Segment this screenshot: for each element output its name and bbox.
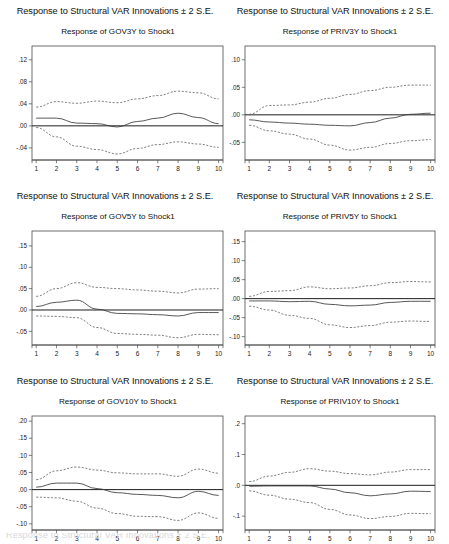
y-tick-label: .00 [18,122,27,129]
x-tick-label: 3 [75,350,79,357]
panel-title: Response of PRIV10Y to Shock1 [225,397,449,406]
panel-supertitle: Response to Structural VAR Innovations ±… [0,376,224,386]
x-tick-label: 9 [197,350,201,357]
y-tick-label: .2 [235,420,241,427]
x-tick-label: 5 [115,165,119,172]
plot-area-priv3y: .10.05.00-.0512345678910 [225,42,449,182]
irf-plot-gov3y: .12.08.04.00-.0412345678910 [0,42,224,182]
x-tick-label: 7 [156,165,160,172]
y-tick-label: -.10 [229,333,240,340]
panel-supertitle: Response to Structural VAR Innovations ±… [225,376,449,386]
y-tick-label: -.04 [16,144,27,151]
x-tick-label: 1 [34,350,38,357]
x-tick-label: 10 [215,350,223,357]
x-tick-label: 4 [95,350,99,357]
y-tick-label: .10 [231,56,240,63]
cutoff-footer-text: Response to Structural VAR Innovations ±… [0,533,449,544]
y-tick-label: .0 [235,482,241,489]
x-tick-label: 6 [136,350,140,357]
irf-plot-gov10y: .20.15.10.05.00-.05-.1012345678910 [0,412,224,544]
panel-supertitle: Response to Structural VAR Innovations ±… [0,191,224,201]
irf-panel-gov10y: Response to Structural VAR Innovations ±… [0,376,224,544]
panel-supertitle: Response to Structural VAR Innovations ±… [225,6,449,16]
panel-title: Response of PRIV5Y to Shock1 [225,212,449,221]
y-tick-label: .12 [18,56,27,63]
y-tick-label: -.05 [16,503,27,510]
x-tick-label: 7 [156,350,160,357]
x-tick-label: 4 [308,165,312,172]
x-tick-label: 9 [409,350,413,357]
x-tick-label: 2 [268,165,272,172]
y-tick-label: .10 [231,257,240,264]
x-tick-label: 8 [176,165,180,172]
y-tick-label: .04 [18,100,27,107]
panel-supertitle: Response to Structural VAR Innovations ±… [225,191,449,201]
x-tick-label: 6 [348,165,352,172]
plot-area-gov3y: .12.08.04.00-.0412345678910 [0,42,224,182]
y-tick-label: .05 [18,469,27,476]
x-tick-label: 8 [388,165,392,172]
x-tick-label: 5 [328,165,332,172]
y-tick-label: -.05 [229,139,240,146]
y-tick-label: .00 [18,306,27,313]
panel-title: Response of GOV10Y to Shock1 [0,397,224,406]
x-tick-label: 3 [288,165,292,172]
y-tick-label: .1 [235,451,241,458]
x-tick-label: 7 [368,165,372,172]
x-tick-label: 4 [95,165,99,172]
x-tick-label: 6 [348,350,352,357]
x-tick-label: 8 [388,350,392,357]
plot-area-priv5y: .15.10.05.00-.05-.1012345678910 [225,227,449,367]
y-tick-label: .15 [18,434,27,441]
figure-sheet: Response to Structural VAR Innovations ±… [0,0,449,544]
x-tick-label: 10 [215,165,223,172]
y-tick-label: .05 [231,84,240,91]
x-tick-label: 7 [368,350,372,357]
y-tick-label: .00 [18,486,27,493]
panel-title: Response of PRIV3Y to Shock1 [225,27,449,36]
y-tick-label: .15 [231,238,240,245]
x-tick-label: 1 [34,165,38,172]
irf-panel-priv3y: Response to Structural VAR Innovations ±… [225,6,449,187]
cutoff-footer-label: Response to Structural VAR Innovations ±… [0,533,449,540]
x-tick-label: 9 [409,165,413,172]
y-tick-label: .10 [18,263,27,270]
y-tick-label: .15 [18,242,27,249]
y-tick-label: -.1 [233,512,241,519]
x-tick-label: 5 [328,350,332,357]
plot-area-gov5y: .15.10.05.00-.0512345678910 [0,227,224,367]
plot-frame [245,231,435,345]
x-tick-label: 1 [247,165,251,172]
y-tick-label: -.10 [16,520,27,527]
plot-frame [32,46,223,160]
y-tick-label: .00 [231,295,240,302]
x-tick-label: 3 [288,350,292,357]
x-tick-label: 1 [247,350,251,357]
x-tick-label: 10 [427,350,435,357]
irf-panel-priv5y: Response to Structural VAR Innovations ±… [225,191,449,372]
plot-area-gov10y: .20.15.10.05.00-.05-.1012345678910 [0,412,224,544]
y-tick-label: -.05 [16,328,27,335]
irf-plot-priv5y: .15.10.05.00-.05-.1012345678910 [225,227,449,367]
panel-title: Response of GOV3Y to Shock1 [0,27,224,36]
y-tick-label: .20 [18,417,27,424]
x-tick-label: 6 [136,165,140,172]
irf-plot-priv10y: .2.1.0-.112345678910 [225,412,449,544]
irf-panel-gov3y: Response to Structural VAR Innovations ±… [0,6,224,187]
y-tick-label: .10 [18,452,27,459]
y-tick-label: -.05 [229,314,240,321]
y-tick-label: .00 [231,111,240,118]
y-tick-label: .05 [231,276,240,283]
plot-frame [245,46,435,160]
irf-panel-gov5y: Response to Structural VAR Innovations ±… [0,191,224,372]
x-tick-label: 2 [268,350,272,357]
irf-panel-priv10y: Response to Structural VAR Innovations ±… [225,376,449,544]
plot-area-priv10y: .2.1.0-.112345678910 [225,412,449,544]
y-tick-label: .05 [18,285,27,292]
x-tick-label: 10 [427,165,435,172]
x-tick-label: 3 [75,165,79,172]
x-tick-label: 5 [115,350,119,357]
x-tick-label: 2 [55,350,59,357]
irf-plot-priv3y: .10.05.00-.0512345678910 [225,42,449,182]
panel-supertitle: Response to Structural VAR Innovations ±… [0,6,224,16]
